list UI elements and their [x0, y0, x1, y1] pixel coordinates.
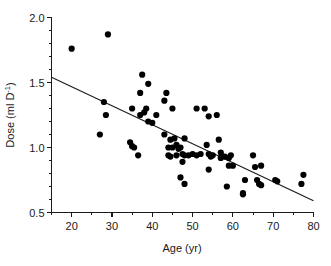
data-point: [216, 137, 222, 143]
y-axis-title: Dose (ml D-1): [3, 82, 16, 147]
data-point: [206, 113, 212, 119]
data-point: [149, 120, 155, 126]
y-axis-title-main: Dose (ml D: [4, 93, 16, 148]
data-point: [240, 191, 246, 197]
data-point: [179, 159, 185, 165]
data-point: [181, 135, 187, 141]
data-point: [202, 105, 208, 111]
x-tick-label: 40: [146, 220, 158, 232]
data-point: [131, 144, 137, 150]
data-point: [228, 152, 234, 158]
data-point: [103, 112, 109, 118]
data-point: [69, 46, 75, 52]
data-point: [161, 98, 167, 104]
x-tick-label: 20: [66, 220, 78, 232]
data-point: [204, 142, 210, 148]
data-point: [101, 99, 107, 105]
x-axis-major-ticks: [72, 213, 314, 218]
data-point: [171, 135, 177, 141]
data-point: [214, 112, 220, 118]
data-point: [143, 105, 149, 111]
data-point: [153, 112, 159, 118]
data-point: [300, 172, 306, 178]
y-tick-label: 2.0: [29, 12, 44, 24]
data-point: [145, 81, 151, 87]
y-tick-label: 1.5: [29, 77, 44, 89]
x-tick-label: 80: [307, 220, 319, 232]
x-tick-label: 30: [106, 220, 118, 232]
data-point: [97, 131, 103, 137]
data-point: [258, 163, 264, 169]
x-axis-title: Age (yr): [162, 242, 201, 254]
data-point: [298, 181, 304, 187]
y-axis-title-superscript: -1: [3, 86, 12, 93]
data-point: [230, 163, 236, 169]
data-point: [242, 177, 248, 183]
data-point: [181, 181, 187, 187]
data-point: [137, 90, 143, 96]
data-point: [258, 182, 264, 188]
data-point: [177, 144, 183, 150]
data-point: [194, 105, 200, 111]
y-axis-title-tail: ): [4, 82, 16, 86]
x-tick-label: 60: [227, 220, 239, 232]
data-point: [274, 178, 280, 184]
data-point: [173, 152, 179, 158]
x-tick-label: 70: [267, 220, 279, 232]
data-point: [135, 152, 141, 158]
data-points-group: [69, 31, 307, 197]
data-point: [210, 152, 216, 158]
data-point: [139, 72, 145, 78]
data-point: [250, 152, 256, 158]
data-point: [224, 183, 230, 189]
data-point: [161, 131, 167, 137]
y-axis-major-ticks: [47, 18, 52, 213]
data-point: [198, 151, 204, 157]
data-point: [129, 105, 135, 111]
chart-figure: 0.51.01.52.0 20304050607080 Age (yr) Dos…: [0, 0, 331, 266]
x-axis-tick-labels: 20304050607080: [66, 220, 320, 232]
data-point: [177, 174, 183, 180]
x-tick-label: 50: [186, 220, 198, 232]
scatter-plot-svg: 0.51.01.52.0 20304050607080 Age (yr) Dos…: [0, 0, 331, 266]
data-point: [252, 164, 258, 170]
data-point: [163, 90, 169, 96]
y-tick-label: 1.0: [29, 142, 44, 154]
data-point: [105, 31, 111, 37]
y-tick-label: 0.5: [29, 207, 44, 219]
data-point: [167, 154, 173, 160]
data-point: [206, 167, 212, 173]
y-axis-tick-labels: 0.51.01.52.0: [29, 12, 44, 219]
data-point: [169, 105, 175, 111]
